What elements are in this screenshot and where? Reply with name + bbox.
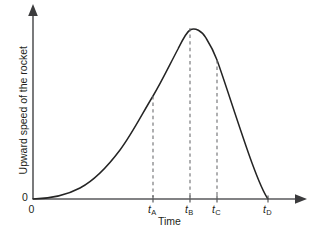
- x-axis-zero-label: 0: [29, 204, 35, 215]
- x-tick-label-ta-sub: A: [151, 208, 156, 217]
- y-axis-zero-label: 0: [22, 192, 28, 203]
- y-axis-title: Upward speed of the rocket: [18, 30, 29, 190]
- x-axis-title: Time: [158, 216, 181, 227]
- x-tick-label-tb-sub: B: [188, 208, 193, 217]
- x-tick-label-td: tD: [263, 204, 271, 215]
- y-axis-arrow-icon: [28, 4, 38, 16]
- x-axis-arrow-icon: [295, 194, 307, 204]
- chart-canvas: [0, 0, 315, 236]
- speed-time-curve: [33, 29, 268, 199]
- rocket-speed-time-graph: Upward speed of the rocket Time 0 0 tA t…: [0, 0, 315, 236]
- x-tick-label-tb: tB: [185, 204, 193, 215]
- x-tick-label-tc-sub: C: [215, 208, 220, 217]
- x-tick-label-ta: tA: [148, 204, 156, 215]
- x-tick-label-tc: tC: [212, 204, 220, 215]
- x-tick-label-td-sub: D: [266, 208, 271, 217]
